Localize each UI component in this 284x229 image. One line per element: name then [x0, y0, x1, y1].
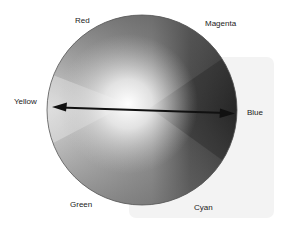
- label-magenta: Magenta: [205, 19, 236, 29]
- label-blue: Blue: [247, 108, 263, 118]
- label-yellow: Yellow: [14, 97, 37, 107]
- label-cyan: Cyan: [194, 203, 213, 213]
- label-green: Green: [70, 200, 92, 210]
- color-wheel: [0, 0, 284, 229]
- label-red: Red: [75, 16, 90, 26]
